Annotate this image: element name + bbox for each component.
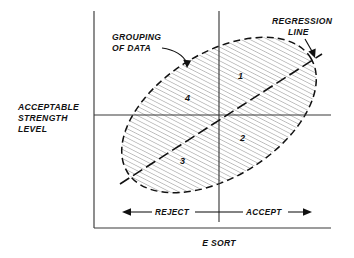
y-axis-label-line-3: LEVEL [18,124,47,134]
reject-label: REJECT [155,208,190,217]
regression-callout-line-1: REGRESSION [272,16,333,26]
grouping-of-data-diagram: ACCEPTABLE STRENGTH LEVEL GROUPING OF DA… [0,0,354,258]
quadrant-label-2: 2 [239,133,245,143]
grouping-callout-leader [162,48,187,63]
x-axis-title: E SORT [202,238,236,248]
y-axis-label: ACCEPTABLE STRENGTH LEVEL [17,102,79,134]
grouping-callout-line-2: OF DATA [112,43,151,53]
y-axis-label-line-2: STRENGTH [18,113,68,123]
diagram-canvas: ACCEPTABLE STRENGTH LEVEL GROUPING OF DA… [0,0,354,258]
grouping-callout-line-1: GROUPING [112,32,161,42]
quadrant-label-1: 1 [238,71,243,81]
y-axis-label-line-1: ACCEPTABLE [17,102,79,112]
quadrant-label-4: 4 [184,93,190,103]
grouping-of-data-callout: GROUPING OF DATA [112,32,191,68]
decision-band: REJECT ACCEPT [122,208,312,217]
quadrant-label-3: 3 [180,156,185,166]
accept-label: ACCEPT [245,208,282,217]
accept-arrowhead-icon [303,208,312,216]
reject-arrowhead-icon [122,208,131,216]
regression-callout-line-2: LINE [288,27,309,37]
